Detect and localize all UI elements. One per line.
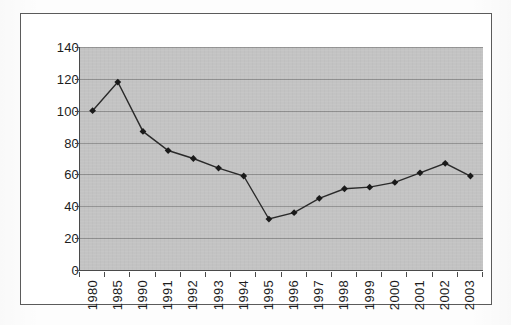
series-line xyxy=(93,82,471,219)
x-tick-label-1990: 1990 xyxy=(135,280,150,310)
y-tick-label-0: 0 xyxy=(33,263,79,278)
x-tick-label-1998: 1998 xyxy=(336,280,351,310)
y-tick-label-60: 60 xyxy=(33,167,79,182)
data-point-1997 xyxy=(316,195,323,202)
data-point-2002 xyxy=(442,160,449,167)
x-tick-mark-0 xyxy=(79,272,80,277)
y-tick-label-20: 20 xyxy=(33,231,79,246)
x-tick-mark-5 xyxy=(205,272,206,277)
x-tick-mark-12 xyxy=(381,272,382,277)
x-tick-mark-4 xyxy=(180,272,181,277)
x-tick-mark-9 xyxy=(306,272,307,277)
data-point-1999 xyxy=(366,184,373,191)
data-point-1998 xyxy=(341,185,348,192)
line-series xyxy=(80,47,483,270)
x-tick-mark-11 xyxy=(356,272,357,277)
data-point-1995 xyxy=(266,216,273,223)
y-tick-label-40: 40 xyxy=(33,199,79,214)
plot-area xyxy=(79,47,483,271)
x-tick-label-1999: 1999 xyxy=(362,280,377,310)
data-point-1993 xyxy=(215,165,222,172)
y-tick-label-140: 140 xyxy=(33,40,79,55)
data-point-1994 xyxy=(240,173,247,180)
x-tick-label-1980: 1980 xyxy=(85,280,100,310)
x-tick-label-1997: 1997 xyxy=(311,280,326,310)
data-point-1996 xyxy=(291,209,298,216)
data-point-2001 xyxy=(417,169,424,176)
x-tick-mark-10 xyxy=(331,272,332,277)
x-tick-mark-16 xyxy=(482,272,483,277)
chart-frame: 020406080100120140 198019851990199119921… xyxy=(20,13,492,305)
x-tick-mark-7 xyxy=(255,272,256,277)
x-tick-label-1996: 1996 xyxy=(286,280,301,310)
x-tick-mark-1 xyxy=(104,272,105,277)
x-tick-mark-13 xyxy=(406,272,407,277)
data-point-2003 xyxy=(467,173,474,180)
x-tick-label-2003: 2003 xyxy=(462,280,477,310)
y-tick-label-120: 120 xyxy=(33,71,79,86)
data-point-1992 xyxy=(190,155,197,162)
x-tick-label-2002: 2002 xyxy=(437,280,452,310)
x-tick-label-2001: 2001 xyxy=(412,280,427,310)
y-tick-label-100: 100 xyxy=(33,103,79,118)
data-point-2000 xyxy=(391,179,398,186)
x-tick-mark-14 xyxy=(432,272,433,277)
y-axis: 020406080100120140 xyxy=(21,47,79,272)
x-tick-mark-8 xyxy=(281,272,282,277)
x-tick-label-1995: 1995 xyxy=(261,280,276,310)
x-tick-mark-15 xyxy=(457,272,458,277)
x-tick-label-1985: 1985 xyxy=(110,280,125,310)
x-tick-label-1993: 1993 xyxy=(211,280,226,310)
x-tick-label-1994: 1994 xyxy=(236,280,251,310)
x-axis: 1980198519901991199219931994199519961997… xyxy=(79,272,483,325)
x-tick-label-2000: 2000 xyxy=(387,280,402,310)
y-tick-label-80: 80 xyxy=(33,135,79,150)
x-tick-label-1992: 1992 xyxy=(185,280,200,310)
x-tick-mark-2 xyxy=(129,272,130,277)
x-tick-mark-3 xyxy=(155,272,156,277)
x-tick-mark-6 xyxy=(230,272,231,277)
x-tick-label-1991: 1991 xyxy=(160,280,175,310)
